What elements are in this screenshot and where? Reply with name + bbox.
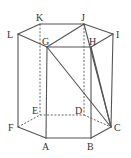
vertex-label-D: D xyxy=(75,105,82,116)
edge-BC xyxy=(91,127,111,138)
vertex-label-K: K xyxy=(36,12,44,23)
edge-JG xyxy=(47,24,84,47)
vertex-label-I: I xyxy=(116,29,119,40)
vertex-label-H: H xyxy=(89,36,96,47)
vertex-label-E: E xyxy=(32,105,38,116)
edge-FA xyxy=(18,127,46,138)
vertex-label-F: F xyxy=(8,122,14,133)
edge-IC xyxy=(111,34,113,127)
visible-edges xyxy=(18,24,113,138)
vertex-label-C: C xyxy=(114,122,121,133)
hidden-edge-DC xyxy=(84,115,111,127)
prism-diagram: ABCDEFGHIJKL xyxy=(0,0,131,158)
vertex-label-B: B xyxy=(87,141,94,152)
vertex-label-G: G xyxy=(42,36,49,47)
vertex-label-A: A xyxy=(42,141,50,152)
edge-LK xyxy=(18,24,40,34)
edge-JI xyxy=(84,24,113,34)
vertex-label-L: L xyxy=(7,29,13,40)
hidden-edge-FE xyxy=(18,115,40,127)
vertex-label-J: J xyxy=(81,12,85,23)
edge-GA xyxy=(46,47,47,138)
hexagonal-prism-figure: ABCDEFGHIJKL xyxy=(0,0,131,158)
